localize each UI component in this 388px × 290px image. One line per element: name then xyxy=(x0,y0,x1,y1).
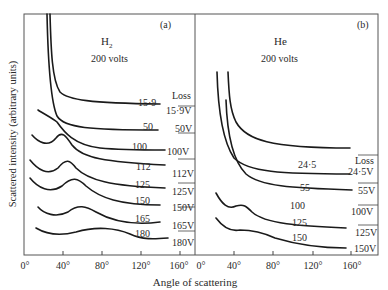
loss-label-he-150: 150V xyxy=(354,244,376,254)
curve-he-125 xyxy=(216,193,346,228)
x-tick-a-0: 0° xyxy=(21,260,30,271)
x-tick-a-120: 120° xyxy=(132,260,151,271)
panel-b-loss-header: Loss xyxy=(355,156,374,166)
scattering-figure: (a) H2 200 volts Loss 15·9 50 100 112 12… xyxy=(0,0,388,290)
panel-b-tag: (b) xyxy=(357,20,369,30)
loss-label-he-100: 100V xyxy=(351,207,373,217)
curve-label-h2-15-9: 15·9 xyxy=(138,98,156,108)
loss-label-h2-15-9: 15·9V xyxy=(166,106,192,116)
curve-label-h2-165: 165 xyxy=(135,214,150,224)
x-tick-a-80: 80° xyxy=(95,260,109,271)
x-tick-b-120: 120° xyxy=(304,260,323,271)
loss-label-he-24-5: 24·5V xyxy=(348,167,374,177)
plot-frame xyxy=(24,14,378,255)
panel-a-gas: H2 xyxy=(101,36,112,50)
loss-label-he-125: 125V xyxy=(355,228,377,238)
curve-label-h2-50: 50 xyxy=(143,122,153,132)
y-axis-label: Scattered intensity (arbitrary units) xyxy=(7,61,18,208)
x-tick-b-80: 80° xyxy=(266,260,280,271)
x-tick-b-0: 0° xyxy=(197,260,206,271)
panel-b-voltage: 200 volts xyxy=(261,54,298,64)
x-tick-a-160: 160° xyxy=(170,260,189,271)
panel-b-curves xyxy=(216,72,352,248)
panel-a-tag: (a) xyxy=(160,20,171,30)
panel-a-voltage: 200 volts xyxy=(91,54,128,64)
loss-label-h2-150: 150V xyxy=(172,203,194,213)
x-tick-b-160: 160° xyxy=(343,260,362,271)
curve-label-he-55: 55 xyxy=(300,183,310,193)
x-tick-b-40: 40° xyxy=(227,260,241,271)
loss-label-h2-100: 100V xyxy=(167,147,189,157)
curve-he-24-5 xyxy=(228,72,350,148)
curve-label-h2-150: 150 xyxy=(135,196,150,206)
curve-label-h2-125: 125 xyxy=(135,180,150,190)
x-ticks-panel-a xyxy=(63,251,180,255)
curve-label-he-150: 150 xyxy=(292,233,307,243)
gas-subscript: 2 xyxy=(109,42,113,50)
gas-symbol: H xyxy=(101,35,109,47)
x-axis-label: Angle of scattering xyxy=(153,276,237,288)
curve-label-h2-112: 112 xyxy=(136,162,151,172)
curve-label-he-125: 125 xyxy=(292,218,307,228)
curve-label-h2-180: 180 xyxy=(135,229,150,239)
curve-h2-50 xyxy=(47,14,158,130)
panel-a-loss-header: Loss xyxy=(172,91,191,101)
curve-label-he-24-5: 24·5 xyxy=(298,160,316,170)
x-tick-a-40: 40° xyxy=(56,260,70,271)
loss-label-h2-165: 165V xyxy=(172,221,194,231)
loss-label-h2-180: 180V xyxy=(172,238,194,248)
loss-label-h2-112: 112V xyxy=(172,169,194,179)
curve-label-h2-100: 100 xyxy=(132,142,147,152)
curve-label-he-100: 100 xyxy=(290,201,305,211)
loss-label-h2-125: 125V xyxy=(172,187,194,197)
x-ticks-panel-b xyxy=(234,251,351,255)
panel-b-gas: He xyxy=(274,36,287,47)
loss-label-he-55: 55V xyxy=(358,186,375,196)
loss-label-h2-50: 50V xyxy=(175,124,192,134)
